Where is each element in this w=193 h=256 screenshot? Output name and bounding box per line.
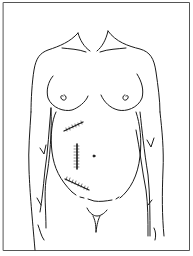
abdomen — [51, 112, 141, 201]
pubic-area — [87, 208, 107, 232]
breasts — [47, 74, 143, 111]
left-arm — [29, 108, 52, 250]
torso-drawing — [0, 0, 193, 256]
upper-oblique-incision — [64, 121, 83, 131]
neck — [78, 31, 108, 51]
right-nipple — [123, 95, 128, 100]
navel — [93, 155, 95, 157]
vertical-paramedian-incision — [74, 144, 80, 169]
left-nipple — [61, 95, 66, 100]
torso-illustration: Female torso line drawing showing three … — [0, 0, 193, 256]
